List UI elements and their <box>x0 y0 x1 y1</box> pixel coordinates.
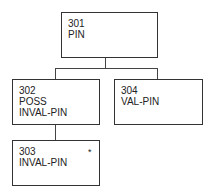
node-301: 301 PIN <box>61 12 158 58</box>
asterisk-marker: * <box>88 148 92 157</box>
connector-301-down <box>105 57 106 68</box>
node-304-label: 304 VAL-PIN <box>121 85 159 107</box>
node-301-label: 301 PIN <box>68 18 85 40</box>
connector-302-to-303 <box>55 124 56 140</box>
connector-to-304 <box>157 68 158 79</box>
node-302-label: 302 POSS INVAL-PIN <box>19 85 67 118</box>
node-304: 304 VAL-PIN <box>114 79 203 125</box>
connector-to-302 <box>55 68 56 79</box>
node-302: 302 POSS INVAL-PIN <box>12 79 100 125</box>
node-303: 303 INVAL-PIN * <box>12 140 100 186</box>
connector-horizontal-bus <box>55 68 158 69</box>
node-303-label: 303 INVAL-PIN <box>19 146 67 168</box>
